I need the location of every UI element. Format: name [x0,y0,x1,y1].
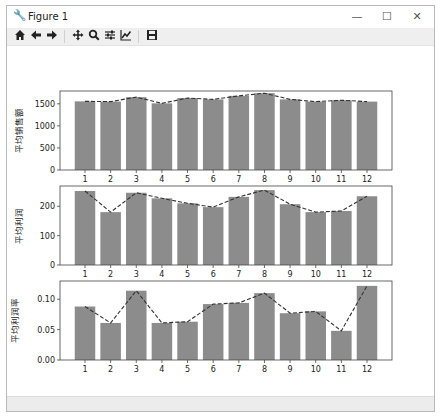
y-tick-label: 0.05 [37,326,55,335]
save-icon[interactable] [145,29,159,43]
x-tick-label: 11 [336,365,346,374]
subplot-1: 123456789101112050010001500平均销售额 [14,91,392,184]
bar [126,193,147,265]
x-tick-label: 5 [185,365,190,374]
x-tick-label: 6 [211,175,216,184]
x-tick-label: 3 [134,175,139,184]
x-tick-label: 6 [211,365,216,374]
y-tick-label: 1500 [35,100,55,109]
y-axis-label: 平均利润 [14,208,24,244]
y-axis-label: 平均利润率 [10,298,20,343]
x-tick-label: 3 [134,270,139,279]
x-tick-label: 7 [236,365,241,374]
x-tick-label: 12 [362,175,372,184]
x-tick-label: 4 [159,365,164,374]
bar [229,197,250,265]
bar [305,212,326,265]
x-tick-label: 2 [108,365,113,374]
y-tick-label: 0.00 [37,356,55,365]
x-tick-label: 7 [236,270,241,279]
move-icon[interactable] [71,29,85,43]
bar [254,93,275,170]
bar [280,204,301,265]
bar [100,102,121,170]
bar [126,97,147,170]
zoom-icon[interactable] [87,29,101,43]
title-bar: 🔧 Figure 1 — ☐ ✕ [7,6,434,28]
home-icon[interactable] [13,29,27,43]
y-tick-label: 500 [40,144,55,153]
sliders-icon[interactable] [103,29,117,43]
y-tick-label: 1000 [35,122,55,131]
bar [177,203,198,265]
window-title: Figure 1 [28,10,68,23]
arrow-left-icon[interactable] [29,29,43,43]
x-tick-label: 10 [311,175,321,184]
bar [177,322,198,360]
x-tick-label: 2 [108,175,113,184]
bar [280,99,301,170]
x-tick-label: 9 [288,270,293,279]
subplot-3: 1234567891011120.000.050.10平均利润率 [10,281,392,374]
maximize-button[interactable]: ☐ [372,8,402,26]
y-tick-label: 200 [40,202,55,211]
y-tick-label: 100 [40,232,55,241]
status-bar [7,396,434,411]
bar [229,96,250,170]
line-chart-icon[interactable] [119,29,133,43]
y-tick-label: 0 [50,166,55,175]
x-tick-label: 6 [211,270,216,279]
navigation-toolbar [7,28,434,46]
bar [280,313,301,360]
bar [305,102,326,170]
figure-canvas[interactable]: 123456789101112050010001500平均销售额12345678… [7,46,434,397]
x-tick-label: 5 [185,270,190,279]
bar [254,190,275,265]
x-tick-label: 4 [159,175,164,184]
x-tick-label: 5 [185,175,190,184]
bar [75,191,96,265]
y-tick-label: 0 [50,261,55,270]
x-tick-label: 8 [262,365,267,374]
x-tick-label: 8 [262,175,267,184]
x-tick-label: 9 [288,365,293,374]
arrow-right-icon[interactable] [45,29,59,43]
x-tick-label: 10 [311,365,321,374]
x-tick-label: 10 [311,270,321,279]
x-tick-label: 7 [236,175,241,184]
bar [75,101,96,170]
bar [357,286,378,360]
bar [177,98,198,170]
y-axis-label: 平均销售额 [14,108,24,153]
subplot-2: 1234567891011120100200平均利润 [14,186,392,279]
bar [331,211,352,265]
y-tick-label: 0.10 [37,295,55,304]
minimize-button[interactable]: — [342,8,372,26]
x-tick-label: 8 [262,270,267,279]
x-tick-label: 12 [362,270,372,279]
bar [152,323,173,360]
x-tick-label: 1 [82,270,87,279]
x-tick-label: 3 [134,365,139,374]
bar [152,198,173,265]
bar [100,212,121,265]
bar [100,323,121,360]
bar [75,307,96,360]
matplotlib-app-icon: 🔧 [13,10,25,22]
x-tick-label: 4 [159,270,164,279]
bar [229,303,250,360]
x-tick-label: 11 [336,175,346,184]
bar [152,103,173,170]
figure-window: 🔧 Figure 1 — ☐ ✕ 12345678910111205001000… [6,5,435,412]
close-button[interactable]: ✕ [402,8,432,26]
bar [254,293,275,360]
x-tick-label: 11 [336,270,346,279]
x-tick-label: 1 [82,175,87,184]
figure-svg: 123456789101112050010001500平均销售额12345678… [7,46,434,398]
x-tick-label: 2 [108,270,113,279]
x-tick-label: 9 [288,175,293,184]
x-tick-label: 1 [82,365,87,374]
bar [203,207,224,265]
bar [331,100,352,170]
bar [357,102,378,170]
